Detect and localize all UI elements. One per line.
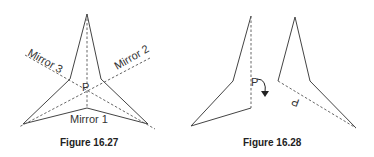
figure-caption: Figure 16.27 bbox=[60, 137, 119, 148]
figure-16-28: P P Figure 16.28 bbox=[191, 16, 356, 148]
diagram-canvas: Mirror 3 Mirror 2 P Mirror 1 Figure 16.2… bbox=[0, 0, 374, 157]
arrowhead-icon bbox=[261, 91, 269, 97]
right-shape-outline bbox=[278, 17, 356, 128]
rotated-p-label: P bbox=[290, 96, 301, 110]
point-p-label: P bbox=[82, 81, 89, 93]
figure-caption: Figure 16.28 bbox=[243, 137, 302, 148]
mirror-2-label: Mirror 2 bbox=[112, 42, 151, 71]
figure-16-27: Mirror 3 Mirror 2 P Mirror 1 Figure 16.2… bbox=[19, 14, 155, 148]
point-p-label: P bbox=[251, 76, 258, 88]
mirror-3-label: Mirror 3 bbox=[26, 46, 65, 75]
left-shape-outline bbox=[191, 16, 251, 126]
mirror-1-label: Mirror 1 bbox=[70, 113, 108, 125]
